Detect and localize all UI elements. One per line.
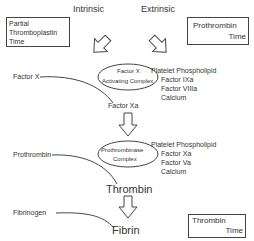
intrinsic-label: Intrinsic	[73, 5, 104, 14]
complex1-component: Factor VIIIa	[161, 85, 197, 92]
down-arrow-icon	[119, 196, 137, 218]
ptt-line-3: Time	[9, 38, 24, 45]
fibrinogen-label: Fibrinogen	[13, 209, 46, 216]
extrinsic-arrow-icon	[146, 32, 173, 59]
complex1-label-1: Factor X	[117, 68, 140, 74]
tt-test-box: Thrombin Time	[188, 214, 246, 238]
pt-line-1: Prothrombin	[193, 22, 237, 30]
pt-line-2: Time	[229, 33, 246, 41]
ptt-test-box: Partial Thromboplastin Time	[6, 17, 70, 47]
down-arrow-icon	[119, 113, 137, 136]
factor-xa-label: Factor Xa	[108, 102, 138, 109]
factor-x-label: Factor X	[13, 73, 39, 80]
complex2-component: Factor Xa	[161, 150, 191, 157]
complex2-label-1: Prothrombinase	[101, 147, 143, 153]
complex2-component: Factor Va	[161, 159, 191, 166]
prothrombin-label: Prothrombin	[13, 151, 51, 158]
extrinsic-label: Extrinsic	[141, 5, 175, 14]
complex1-label-2: Activating Complex	[102, 78, 153, 84]
prothrombinase-complex-ellipse	[98, 141, 158, 167]
intrinsic-arrow-icon	[87, 32, 114, 59]
pt-test-box: Prothrombin Time	[187, 17, 249, 45]
complex2-component: Platelet Phospholipid	[151, 141, 216, 148]
tt-line-2: Time	[226, 227, 243, 235]
complex1-component: Platelet Phospholipid	[151, 67, 216, 74]
complex2-label-2: Complex	[113, 156, 137, 162]
complex1-component: Factor IXa	[161, 76, 193, 83]
complex1-component: Calcium	[161, 94, 186, 101]
tt-line-1: Thrombin	[192, 217, 226, 225]
complex2-component: Calcium	[161, 168, 186, 175]
fibrin-label: Fibrin	[112, 225, 140, 236]
thrombin-label: Thrombin	[106, 184, 152, 195]
ptt-line-2: Thromboplastin	[9, 29, 57, 36]
ptt-line-1: Partial	[9, 20, 29, 27]
